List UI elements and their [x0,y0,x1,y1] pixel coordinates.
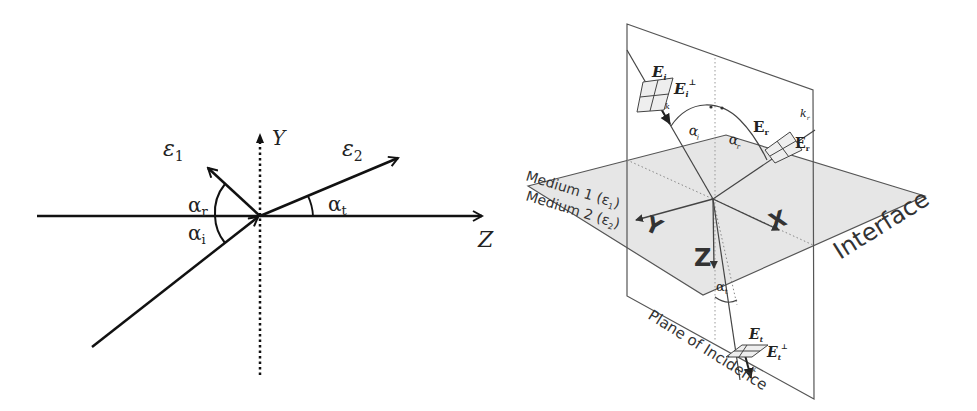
incident-ray [92,217,258,347]
reflected-k-label: kr [800,107,811,121]
incident-angle-label-3d: αi [687,121,704,142]
incident-k-label: k [665,102,670,111]
medium1-label: ε1 [163,136,184,164]
arc-dot [709,105,712,108]
arc-dot [720,106,723,109]
z-axis-label: Z [477,227,494,252]
angle-arc-reflected [215,184,225,216]
right-diagram: Ei Ei⊥ k Er Er kr Et Et⊥ k αi αr αt X Y … [524,24,935,399]
y-axis-label: Y [272,126,287,150]
angle-arc-transmitted-3d [715,297,737,302]
diagram-canvas: Y Z ε1 ε2 αr αi αt [0,0,977,411]
reflected-e-perp-label: Er [795,135,810,153]
angle-label-reflected: αr [188,193,209,219]
incident-e-perp-label: Ei⊥ [673,77,696,99]
medium2-label: ε2 [342,136,363,164]
angle-arc-transmitted [308,196,313,216]
incident-e-parallel-label: Ei [651,63,666,82]
reflected-e-parallel-label: Er [753,118,769,137]
transmitted-e-parallel-label: Et [748,326,764,344]
left-diagram: Y Z ε1 ε2 αr αi αt [37,126,494,375]
z-axis-label-3d: Z [694,244,711,272]
angle-label-incident: αi [188,221,206,247]
transmitted-e-perp-label: Et⊥ [766,342,788,362]
angle-label-transmitted: αt [328,192,348,218]
y-axis-arrow-icon [256,133,264,143]
angle-arc-incident [215,216,225,243]
